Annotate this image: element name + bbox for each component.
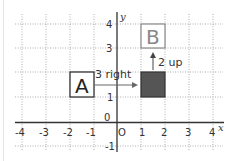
up-arrow	[150, 52, 156, 70]
x-tick: 1	[139, 127, 145, 138]
x-tick: 4	[209, 127, 215, 138]
right-translation-label: 3 right	[95, 68, 132, 81]
x-tick: -1	[86, 127, 96, 138]
coordinate-plane: x y -4 -3 -2 -1 O 1 2 3 4 4 3 1 0 -1 A B…	[0, 0, 240, 161]
x-tick: -4	[15, 127, 25, 138]
y-tick-zero: 0	[104, 112, 110, 123]
up-translation-label: 2 up	[158, 56, 182, 69]
y-tick: 3	[106, 43, 112, 54]
y-tick: -1	[105, 141, 115, 152]
intermediate-square	[141, 72, 165, 97]
x-tick: -2	[63, 127, 73, 138]
shape-b: B	[141, 24, 165, 49]
shape-a-label: A	[75, 74, 89, 98]
shape-a: A	[70, 72, 94, 98]
x-axis-label: x	[218, 122, 224, 133]
origin-label: O	[118, 127, 126, 138]
y-tick: 1	[107, 92, 113, 103]
x-tick-labels: -4 -3 -2 -1 O 1 2 3 4	[15, 127, 215, 138]
y-tick: 4	[106, 19, 112, 30]
shape-b-label: B	[146, 25, 160, 49]
y-axis-label: y	[119, 11, 126, 22]
x-tick: 2	[161, 127, 167, 138]
x-tick: 3	[185, 127, 191, 138]
x-tick: -3	[39, 127, 49, 138]
